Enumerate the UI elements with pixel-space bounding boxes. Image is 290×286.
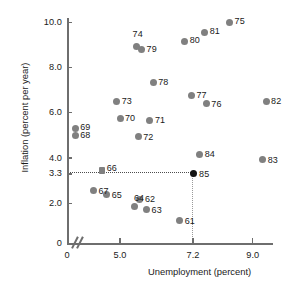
data-point[interactable]	[150, 79, 157, 86]
data-point[interactable]	[113, 98, 120, 105]
data-point[interactable]	[201, 29, 208, 36]
data-point-label: 63	[152, 205, 162, 215]
data-point-label: 78	[158, 77, 168, 87]
data-point-label: 80	[190, 35, 200, 45]
y-tick-label: 0	[32, 238, 62, 248]
y-tick-mark	[67, 203, 72, 204]
data-point[interactable]	[263, 98, 270, 105]
y-tick-label: 8.0	[32, 62, 62, 72]
data-point-label: 69	[80, 122, 90, 132]
data-point-label: 85	[199, 169, 209, 179]
data-point-label: 72	[143, 132, 153, 142]
data-point-label: 67	[98, 186, 108, 196]
data-point[interactable]	[138, 46, 145, 53]
y-tick-label: 10.0	[32, 17, 62, 27]
y-tick-label: 4.0	[32, 153, 62, 163]
reference-line-horizontal	[70, 172, 193, 173]
data-point[interactable]	[181, 38, 188, 45]
y-tick-label: 6.0	[32, 107, 62, 117]
data-point-label: 65	[112, 190, 122, 200]
y-axis-label: Inflation (percent per year)	[19, 28, 30, 208]
data-point-label: 70	[125, 113, 135, 123]
data-point[interactable]	[226, 19, 233, 26]
x-tick-label: 9.0	[236, 250, 270, 260]
y-axis-line	[67, 18, 69, 244]
data-point[interactable]	[143, 206, 150, 213]
data-point[interactable]	[190, 170, 197, 177]
x-tick-mark	[252, 238, 253, 243]
x-axis-label: Unemployment (percent)	[148, 266, 251, 277]
data-point[interactable]	[135, 133, 142, 140]
data-point-label: 75	[235, 16, 245, 26]
x-tick-label: 5.0	[103, 250, 137, 260]
data-point[interactable]	[196, 151, 203, 158]
y-tick-mark	[67, 22, 72, 23]
data-point-label: 83	[268, 155, 278, 165]
data-point[interactable]	[90, 187, 97, 194]
x-tick-label: 0	[50, 250, 84, 260]
x-tick-mark	[119, 238, 120, 243]
data-point-label: 76	[211, 99, 221, 109]
data-point[interactable]	[176, 217, 183, 224]
y-tick-mark	[67, 173, 72, 174]
data-point[interactable]	[117, 115, 124, 122]
data-point-label: 66	[107, 163, 117, 173]
reference-line-vertical	[192, 172, 193, 243]
data-point-label: 71	[155, 115, 165, 125]
data-point[interactable]	[203, 100, 210, 107]
data-point-label: 62	[145, 194, 155, 204]
data-point-label: 74	[133, 29, 143, 39]
data-point-label: 84	[205, 149, 215, 159]
y-tick-mark	[67, 67, 72, 68]
data-point-label: 77	[196, 90, 206, 100]
data-point-label: 73	[122, 96, 132, 106]
y-tick-label: 3.3	[32, 168, 62, 178]
data-point-label: 79	[147, 44, 157, 54]
data-point-label: 81	[210, 26, 220, 36]
data-point-label: 64	[134, 193, 144, 203]
data-point[interactable]	[131, 203, 138, 210]
data-point-label: 61	[185, 216, 195, 226]
x-axis-line	[67, 243, 273, 245]
data-point-label: 82	[271, 96, 281, 106]
data-point[interactable]	[146, 117, 153, 124]
scatter-chart: 10.08.06.04.03.32.00 05.07.29.0 61626364…	[0, 0, 290, 286]
y-tick-label: 2.0	[32, 198, 62, 208]
y-tick-mark	[67, 157, 72, 158]
y-tick-mark	[67, 112, 72, 113]
data-point[interactable]	[72, 132, 79, 139]
data-point[interactable]	[188, 92, 195, 99]
x-tick-mark	[192, 238, 193, 243]
data-point[interactable]	[72, 125, 79, 132]
data-point[interactable]	[99, 167, 105, 173]
x-tick-label: 7.2	[176, 250, 210, 260]
data-point[interactable]	[259, 156, 266, 163]
